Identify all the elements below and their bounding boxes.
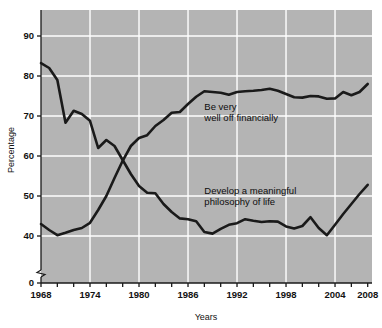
x-tick-label: 1986 [177, 289, 198, 300]
y-axis-title: Percentage [6, 127, 16, 173]
line-chart: 0405060708090 19681974198019861992199820… [0, 0, 382, 328]
chart-figure: 0405060708090 19681974198019861992199820… [0, 0, 382, 328]
y-tick-label: 40 [23, 230, 34, 241]
series-label-0-line2: well off financially [203, 112, 278, 123]
series-label-0: Be very [204, 101, 236, 112]
x-tick-label: 1980 [128, 289, 149, 300]
x-tick-label: 1998 [275, 289, 296, 300]
x-tick-label: 1992 [226, 289, 247, 300]
y-tick-label: 90 [23, 30, 34, 41]
y-tick-label: 0 [29, 277, 34, 288]
x-tick-label: 2008 [357, 289, 378, 300]
x-tick-label: 2004 [324, 289, 346, 300]
x-tick-label: 1968 [30, 289, 51, 300]
x-axis-tick-labels: 19681974198019861992199820042008 [30, 289, 378, 300]
x-tick-label: 1974 [79, 289, 101, 300]
y-tick-label: 60 [23, 150, 34, 161]
y-axis-tick-labels: 0405060708090 [23, 30, 34, 288]
x-axis-title: Years [195, 312, 218, 322]
series-label-1: Develop a meaningful [204, 185, 296, 196]
y-tick-label: 50 [23, 190, 34, 201]
y-tick-label: 80 [23, 70, 34, 81]
y-tick-label: 70 [23, 110, 34, 121]
series-label-1-line2: philosophy of life [204, 196, 275, 207]
x-axis-ticks [41, 283, 368, 287]
